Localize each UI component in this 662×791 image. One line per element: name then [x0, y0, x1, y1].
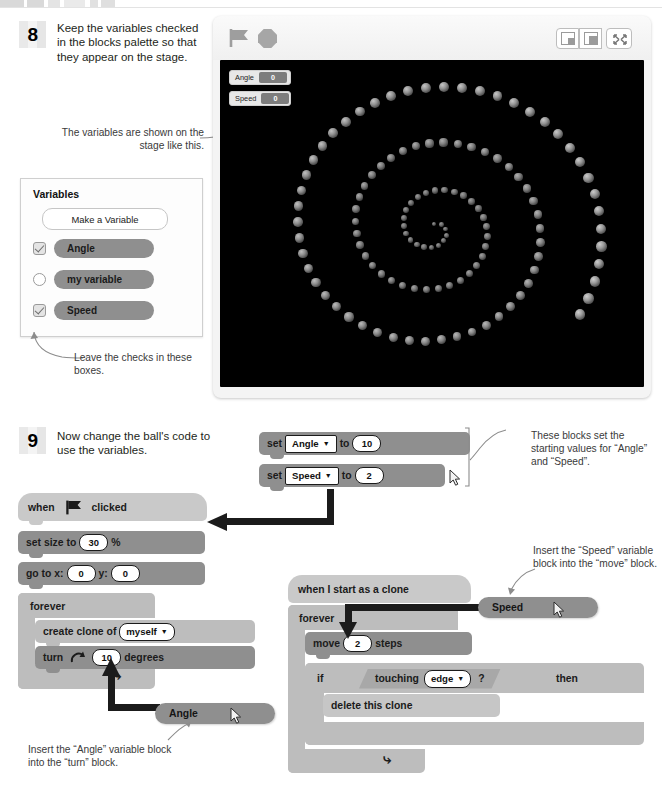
- input-angle-value[interactable]: 10: [352, 435, 381, 452]
- caption-insert-speed: Insert the “Speed” variable block into t…: [533, 545, 658, 571]
- make-a-variable-button[interactable]: Make a Variable: [42, 208, 168, 230]
- dropdown-touching-target[interactable]: edge ▼: [424, 670, 471, 688]
- stage-ball-clone: [386, 91, 396, 101]
- input-size-value[interactable]: 30: [79, 534, 108, 551]
- stage-ball-clone: [414, 242, 420, 248]
- variable-block-angle[interactable]: Angle: [54, 239, 154, 258]
- block-set-size-to[interactable]: set size to 30 %: [18, 531, 205, 554]
- block-set-speed-to[interactable]: set Speed ▼ to 2: [259, 464, 445, 487]
- go-to-mid: y:: [99, 568, 108, 579]
- block-go-to-xy[interactable]: go to x: 0 y: 0: [18, 562, 205, 585]
- loose-variable-block-speed[interactable]: Speed: [478, 597, 598, 618]
- input-x-value[interactable]: 0: [67, 565, 96, 582]
- chevron-down-icon: ▼: [161, 628, 168, 635]
- connector-horizontal-speed: [345, 604, 491, 611]
- stage-ball-clone: [495, 312, 504, 321]
- stage-window: Angle 0 Speed 0: [213, 16, 651, 398]
- stage-ball-clone: [575, 309, 585, 319]
- stage-ball-clone: [403, 231, 409, 237]
- stage-canvas[interactable]: Angle 0 Speed 0: [220, 60, 644, 387]
- leader-line-speed-caption: [495, 568, 539, 600]
- block-when-flag-clicked[interactable]: when clicked: [18, 493, 207, 521]
- block-turn-degrees[interactable]: turn 10 degrees: [35, 646, 255, 669]
- stage-ball-clone: [457, 83, 467, 93]
- stage-ball-clone: [311, 278, 320, 287]
- step-8-instruction: Keep the variables checked in the blocks…: [57, 21, 202, 64]
- stage-ball-clone: [590, 189, 600, 199]
- dropdown-clone-target[interactable]: myself ▼: [119, 623, 174, 641]
- stage-ball-clone: [415, 194, 421, 200]
- stage-ball-clone: [451, 189, 457, 195]
- checkbox-angle[interactable]: [33, 242, 46, 255]
- stage-ball-clone: [583, 293, 593, 303]
- input-speed-value[interactable]: 2: [355, 467, 384, 484]
- stage-ball-clone: [411, 285, 418, 292]
- variable-block-my-variable[interactable]: my variable: [54, 270, 154, 289]
- move-prefix: move: [313, 638, 340, 649]
- palette-variable-row-angle[interactable]: Angle: [33, 239, 191, 261]
- stage-monitor-speed[interactable]: Speed 0: [229, 91, 291, 106]
- block-then-label: then: [556, 670, 578, 687]
- mouse-cursor-speed-block: [554, 602, 565, 618]
- block-create-clone-of[interactable]: create clone of myself ▼: [35, 620, 255, 643]
- stage-ball-clone: [475, 86, 485, 96]
- stage-ball-clone: [352, 218, 360, 226]
- block-forever-right-bottom: [288, 749, 425, 773]
- stage-ball-clone: [509, 98, 519, 108]
- stage-ball-clone: [377, 162, 385, 170]
- connector-arrowhead-speed: [339, 622, 357, 639]
- loop-arrow-icon-right: ⤷: [383, 750, 391, 767]
- stage-ball-clone: [475, 205, 482, 212]
- stage-ball-clone: [421, 244, 427, 250]
- stage-ball-clone: [318, 141, 328, 151]
- page-top-strip: [0, 0, 662, 9]
- connector-arrowhead-1: [207, 513, 227, 531]
- connector-arrowhead-angle: [102, 658, 120, 676]
- stage-ball-clone: [429, 245, 434, 250]
- stage-ball-clone: [368, 171, 376, 179]
- stage-ball-clone: [441, 187, 447, 193]
- block-move-steps[interactable]: move 2 steps: [305, 632, 472, 655]
- variable-block-speed[interactable]: Speed: [54, 301, 154, 320]
- dropdown-variable-speed[interactable]: Speed ▼: [285, 467, 339, 485]
- stage-ball-clone: [516, 291, 525, 300]
- checkbox-speed[interactable]: [33, 304, 46, 317]
- palette-variable-row-speed[interactable]: Speed: [33, 301, 191, 323]
- loose-variable-block-angle[interactable]: Angle: [155, 703, 275, 724]
- block-delete-this-clone[interactable]: delete this clone: [323, 694, 500, 717]
- stage-ball-clone: [298, 249, 307, 258]
- block-if-label: if: [317, 670, 323, 687]
- stage-ball-clone: [421, 337, 430, 346]
- stage-ball-clone: [481, 148, 489, 156]
- dropdown-variable-angle-label: Angle: [292, 438, 319, 449]
- when-flag-post: clicked: [92, 502, 127, 513]
- stage-monitor-angle[interactable]: Angle 0: [229, 70, 291, 85]
- block-touching-edge[interactable]: touching edge ▼ ?: [355, 668, 505, 689]
- green-flag-icon[interactable]: [229, 28, 251, 48]
- fullscreen-icon[interactable]: [606, 28, 632, 49]
- stage-ball-clone: [344, 312, 353, 321]
- checkbox-my-variable[interactable]: [33, 273, 46, 286]
- dropdown-variable-angle[interactable]: Angle ▼: [285, 435, 337, 453]
- stage-toolbar: [213, 16, 651, 60]
- stage-ball-clone: [405, 336, 414, 345]
- caption-stage-monitors: The variables are shown on the stage lik…: [38, 127, 204, 153]
- input-y-value[interactable]: 0: [111, 565, 140, 582]
- large-stage-icon[interactable]: [579, 28, 602, 49]
- block-when-i-start-as-a-clone[interactable]: when I start as a clone: [288, 575, 471, 603]
- stage-ball-clone: [403, 86, 413, 96]
- block-set-angle-to[interactable]: set Angle ▼ to 10: [259, 432, 470, 455]
- palette-variable-row-my-variable[interactable]: my variable: [33, 270, 191, 292]
- stage-ball-clone: [408, 237, 414, 243]
- turn-post: degrees: [124, 652, 164, 663]
- go-to-prefix: go to x:: [26, 568, 64, 579]
- stop-sign-icon[interactable]: [258, 29, 277, 48]
- stage-ball-clone: [596, 224, 606, 234]
- small-stage-icon[interactable]: [556, 28, 579, 49]
- block-forever-right-label: forever: [299, 609, 334, 627]
- stage-ball-clone: [534, 210, 543, 219]
- stage-ball-clone: [425, 139, 433, 147]
- dropdown-touching-target-label: edge: [431, 673, 453, 684]
- mouse-cursor-angle-block: [231, 708, 242, 724]
- stage-ball-clone: [565, 143, 575, 153]
